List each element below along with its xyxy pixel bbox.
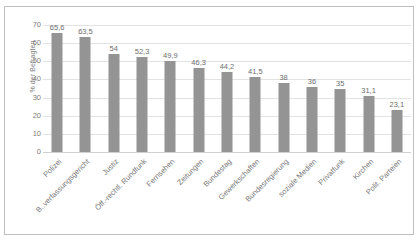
bar[interactable]: [335, 89, 346, 153]
bar[interactable]: [108, 54, 119, 152]
bar-slot: 49,9: [156, 25, 184, 152]
bar-value-label: 41,5: [248, 68, 263, 76]
bar-value-label: 49,9: [163, 52, 178, 60]
bar-slot: 41,5: [241, 25, 269, 152]
gridline: [43, 152, 411, 153]
y-axis-tick-label: 50: [19, 57, 41, 65]
bar[interactable]: [137, 57, 148, 152]
y-axis-tick-label: 10: [19, 130, 41, 138]
bar[interactable]: [363, 96, 374, 152]
bar[interactable]: [165, 61, 176, 152]
bar[interactable]: [278, 83, 289, 152]
bar-value-label: 65,6: [50, 24, 65, 32]
x-axis-tick-label: Polizei: [42, 157, 64, 179]
bar-slot: 52,3: [128, 25, 156, 152]
x-label-slot: soziale Medien: [298, 154, 326, 238]
bar-slot: 35: [326, 25, 354, 152]
y-axis-tick-label: 30: [19, 94, 41, 102]
x-axis-tick-label: Justiz: [100, 157, 120, 177]
x-label-slot: Zeitungen: [185, 154, 213, 238]
bar[interactable]: [221, 72, 232, 152]
bar-slot: 31,1: [354, 25, 382, 152]
bar-value-label: 52,3: [135, 48, 150, 56]
bar-value-label: 54: [110, 45, 118, 53]
bar-value-label: 38: [279, 74, 287, 82]
x-label-slot: Fernsehen: [156, 154, 184, 238]
x-label-slot: Kirchen: [354, 154, 382, 238]
bar-value-label: 63,5: [78, 28, 93, 36]
bar-slot: 54: [100, 25, 128, 152]
y-axis-tick-label: 60: [19, 39, 41, 47]
bar-slot: 23,1: [383, 25, 411, 152]
bar-value-label: 31,1: [361, 87, 376, 95]
bar[interactable]: [391, 110, 402, 152]
bar-value-label: 35: [336, 80, 344, 88]
bar[interactable]: [80, 37, 91, 152]
bar[interactable]: [250, 77, 261, 152]
bar[interactable]: [306, 87, 317, 152]
x-axis-tick-labels: PolizeiB..verfassungsgerichtJustizÖff.-r…: [43, 154, 411, 238]
bar[interactable]: [52, 33, 63, 152]
y-axis-tick-label: 70: [19, 21, 41, 29]
bar-value-label: 46,3: [191, 59, 206, 67]
bar-slot: 38: [269, 25, 297, 152]
bar-value-label: 36: [308, 78, 316, 86]
bar-slot: 63,5: [71, 25, 99, 152]
chart-container: % der Befragten 010203040506070 65,663,5…: [4, 6, 414, 235]
plot-area: 65,663,55452,349,946,344,241,538363531,1…: [43, 25, 411, 152]
bar-value-label: 44,2: [220, 63, 235, 71]
y-axis-tick-label: 20: [19, 112, 41, 120]
x-label-slot: Polit. Parteien: [383, 154, 411, 238]
bar-slot: 44,2: [213, 25, 241, 152]
x-axis-tick-label: Kirchen: [351, 157, 375, 181]
y-axis-tick-labels: 010203040506070: [19, 25, 41, 152]
x-label-slot: Privatfunk: [326, 154, 354, 238]
bar[interactable]: [193, 68, 204, 152]
bar-slot: 65,6: [43, 25, 71, 152]
x-label-slot: Öff.-rechtl. Rundfunk: [128, 154, 156, 238]
y-axis-tick-label: 40: [19, 75, 41, 83]
bar-slot: 46,3: [185, 25, 213, 152]
x-label-slot: B..verfassungsgericht: [71, 154, 99, 238]
bar-slot: 36: [298, 25, 326, 152]
bar-series: 65,663,55452,349,946,344,241,538363531,1…: [43, 25, 411, 152]
y-axis-tick-label: 0: [19, 148, 41, 156]
bar-value-label: 23,1: [390, 101, 405, 109]
